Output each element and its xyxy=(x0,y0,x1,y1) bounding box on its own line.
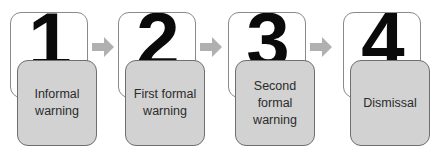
step-label: Informal warning xyxy=(34,86,79,120)
label-card: Second formal warning xyxy=(235,60,315,146)
arrow-right-icon xyxy=(310,36,332,58)
label-card: Informal warning xyxy=(17,60,97,146)
step-label: First formal warning xyxy=(134,86,197,120)
step-label: Dismissal xyxy=(363,95,416,112)
label-card: First formal warning xyxy=(125,60,205,146)
step-4: 4 Dismissal xyxy=(333,0,433,156)
step-3: 3 Second formal warning xyxy=(218,0,318,156)
step-1: 1 Informal warning xyxy=(0,0,100,156)
step-2: 2 First formal warning xyxy=(108,0,208,156)
label-card: Dismissal xyxy=(350,60,430,146)
step-label: Second formal warning xyxy=(253,78,297,129)
